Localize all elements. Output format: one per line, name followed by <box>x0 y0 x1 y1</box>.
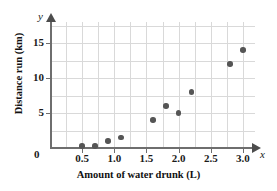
x-axis-ticklabel: 2.5 <box>196 152 226 164</box>
gridline-vertical <box>146 22 147 148</box>
y-axis-tick <box>46 113 51 114</box>
gridline-vertical <box>130 22 131 148</box>
y-axis-tick <box>46 43 51 44</box>
gridline-vertical <box>82 22 83 148</box>
y-axis-ticklabel: 10 <box>14 71 44 83</box>
origin-label: 0 <box>34 148 40 160</box>
gridline-vertical <box>98 22 99 148</box>
gridline-horizontal <box>50 131 255 132</box>
gridline-horizontal <box>50 113 255 114</box>
y-axis-tick <box>46 78 51 79</box>
data-point <box>189 89 195 95</box>
data-point <box>92 143 98 149</box>
y-variable-label: y <box>38 10 43 22</box>
x-axis-ticklabel: 2.0 <box>164 152 194 164</box>
gridline-horizontal <box>50 96 255 97</box>
y-axis-line <box>50 20 52 149</box>
y-axis-arrow-icon <box>46 13 56 22</box>
gridline-horizontal <box>50 43 255 44</box>
data-point <box>163 103 169 109</box>
data-point <box>79 143 85 149</box>
gridline-vertical <box>66 22 67 148</box>
x-axis-title: Amount of water drunk (L) <box>0 169 277 180</box>
x-axis-ticklabel: 3.0 <box>228 152 258 164</box>
gridline-vertical <box>227 22 228 148</box>
gridline-vertical <box>195 22 196 148</box>
y-axis-ticklabel: 5 <box>14 106 44 118</box>
scatter-plot-figure: 0 x y Amount of water drunk (L) Distance… <box>0 0 277 191</box>
data-point <box>240 47 246 53</box>
plot-area <box>50 22 255 148</box>
data-point <box>150 117 156 123</box>
gridline-horizontal <box>50 26 255 27</box>
gridline-vertical <box>163 22 164 148</box>
gridline-vertical <box>114 22 115 148</box>
gridline-vertical <box>179 22 180 148</box>
data-point <box>118 135 124 141</box>
gridline-vertical <box>211 22 212 148</box>
data-point <box>105 138 111 144</box>
gridline-vertical <box>243 22 244 148</box>
x-axis-ticklabel: 0.5 <box>67 152 97 164</box>
x-variable-label: x <box>260 148 265 160</box>
y-axis-ticklabel: 15 <box>14 36 44 48</box>
data-point <box>227 61 233 67</box>
gridline-horizontal <box>50 61 255 62</box>
gridline-horizontal <box>50 78 255 79</box>
x-axis-ticklabel: 1.5 <box>131 152 161 164</box>
x-axis-ticklabel: 1.0 <box>99 152 129 164</box>
